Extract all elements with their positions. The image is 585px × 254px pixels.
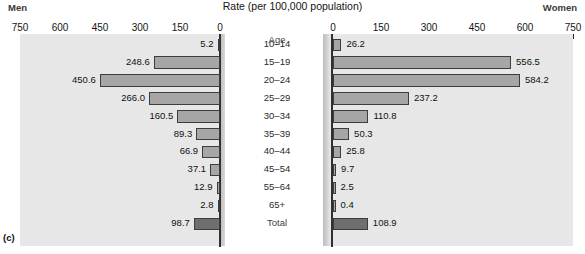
chart-row: 248.615–19556.5 [0,54,585,72]
chart-row: 66.940–4425.8 [0,143,585,161]
age-group-label: 40–44 [232,145,322,156]
men-bar [194,218,220,230]
chart-row: 89.335–3950.3 [0,126,585,144]
age-group-label: 30–34 [232,110,322,121]
women-value-label: 584.2 [525,74,549,85]
women-value-label: 26.2 [346,38,365,49]
women-bar [333,110,368,122]
left-axis-tick-label: 450 [92,22,109,33]
women-bar [333,92,409,104]
chart-row: 12.955–642.5 [0,179,585,197]
women-value-label: 2.5 [341,181,354,192]
men-value-label: 98.7 [148,217,190,228]
chart-row: 98.7Total108.9 [0,215,585,233]
chart-row: 450.620–24584.2 [0,72,585,90]
women-bar [333,74,520,86]
women-value-label: 108.9 [373,217,397,228]
men-bar [149,92,220,104]
men-bar [202,146,220,158]
women-value-label: 25.8 [346,145,365,156]
chart-row: 160.530–34110.8 [0,108,585,126]
men-value-label: 12.9 [171,181,213,192]
age-group-label: 65+ [232,199,322,210]
men-bar [177,110,220,122]
right-axis-tick-label: 300 [421,22,438,33]
women-bar [333,218,368,230]
age-group-label: 10–14 [232,38,322,49]
women-bar [333,146,341,158]
men-bar [196,128,220,140]
back-to-back-bar-chart: Men Women Rate (per 100,000 population) … [0,0,585,254]
right-axis-tick-label: 0 [330,22,336,33]
chart-row: 5.210–1426.2 [0,36,585,54]
women-value-label: 237.2 [414,92,438,103]
women-bar [333,182,336,194]
women-value-label: 50.3 [354,128,373,139]
women-value-label: 9.7 [341,163,354,174]
left-axis-tick-label: 600 [52,22,69,33]
men-value-label: 266.0 [103,92,145,103]
women-side-header: Women [543,2,577,13]
panel-caption: (c) [3,232,15,243]
women-bar [333,39,341,51]
men-value-label: 5.2 [172,38,214,49]
men-bar [218,39,221,51]
chart-row: 37.145–549.7 [0,161,585,179]
men-value-label: 160.5 [131,110,173,121]
men-bar [154,56,220,68]
women-value-label: 0.4 [341,199,354,210]
right-axis-tick-label: 750 [565,22,582,33]
left-axis-tick-label: 300 [132,22,149,33]
men-bar [210,164,220,176]
age-group-label: Total [232,217,322,228]
men-value-label: 37.1 [164,163,206,174]
women-bar [333,128,349,140]
right-axis-tick-label: 150 [373,22,390,33]
right-axis-tick-label: 450 [469,22,486,33]
men-value-label: 248.6 [108,56,150,67]
left-axis-tick-label: 0 [217,22,223,33]
men-side-header: Men [8,2,27,13]
age-group-label: 45–54 [232,163,322,174]
women-value-label: 110.8 [373,110,396,121]
men-bar [217,182,220,194]
chart-row: 266.025–29237.2 [0,90,585,108]
women-bar [333,164,336,176]
left-axis-tick-label: 750 [12,22,29,33]
age-group-label: 25–29 [232,92,322,103]
men-value-label: 2.8 [172,199,214,210]
age-group-label: 20–24 [232,74,322,85]
age-group-label: 55–64 [232,181,322,192]
men-value-label: 66.9 [156,145,198,156]
age-group-label: 35–39 [232,128,322,139]
men-bar [100,74,220,86]
men-value-label: 450.6 [54,74,96,85]
men-value-label: 89.3 [150,128,192,139]
chart-row: 2.865+0.4 [0,197,585,215]
right-axis-tick-label: 600 [517,22,534,33]
age-group-label: 15–19 [232,56,322,67]
chart-title: Rate (per 100,000 population) [0,0,585,12]
women-bar [333,200,336,212]
left-axis-tick-label: 150 [172,22,189,33]
women-bar [333,56,511,68]
men-bar [218,200,221,212]
women-value-label: 556.5 [516,56,540,67]
